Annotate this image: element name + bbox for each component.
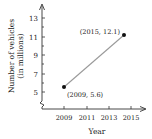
y-axis-label-line2: (in millions) [16,33,25,78]
x-tick-label: 2015 [123,114,140,122]
y-tick-label: 7 [34,71,38,79]
chart: 13 11 9 7 5 2009 2011 2013 2015 Year Num… [0,0,152,139]
y-axis-label-line1: Number of vehicles [7,19,16,93]
data-line [64,35,124,87]
data-point-2015 [122,33,126,37]
data-point-2009 [62,85,66,89]
x-tick-label: 2011 [79,114,96,122]
y-tick-label: 5 [34,89,38,97]
x-tick-label: 2009 [56,114,73,122]
y-axis-break-icon [40,101,44,109]
y-tick-label: 13 [29,15,38,23]
y-tick-label: 11 [29,34,38,42]
point-label-2015: (2015, 12.1) [80,28,121,36]
x-tick-label: 2013 [101,114,118,122]
y-tick-label: 9 [34,52,38,60]
x-axis-label: Year [88,127,106,136]
point-label-2009: (2009, 5.6) [67,91,104,99]
